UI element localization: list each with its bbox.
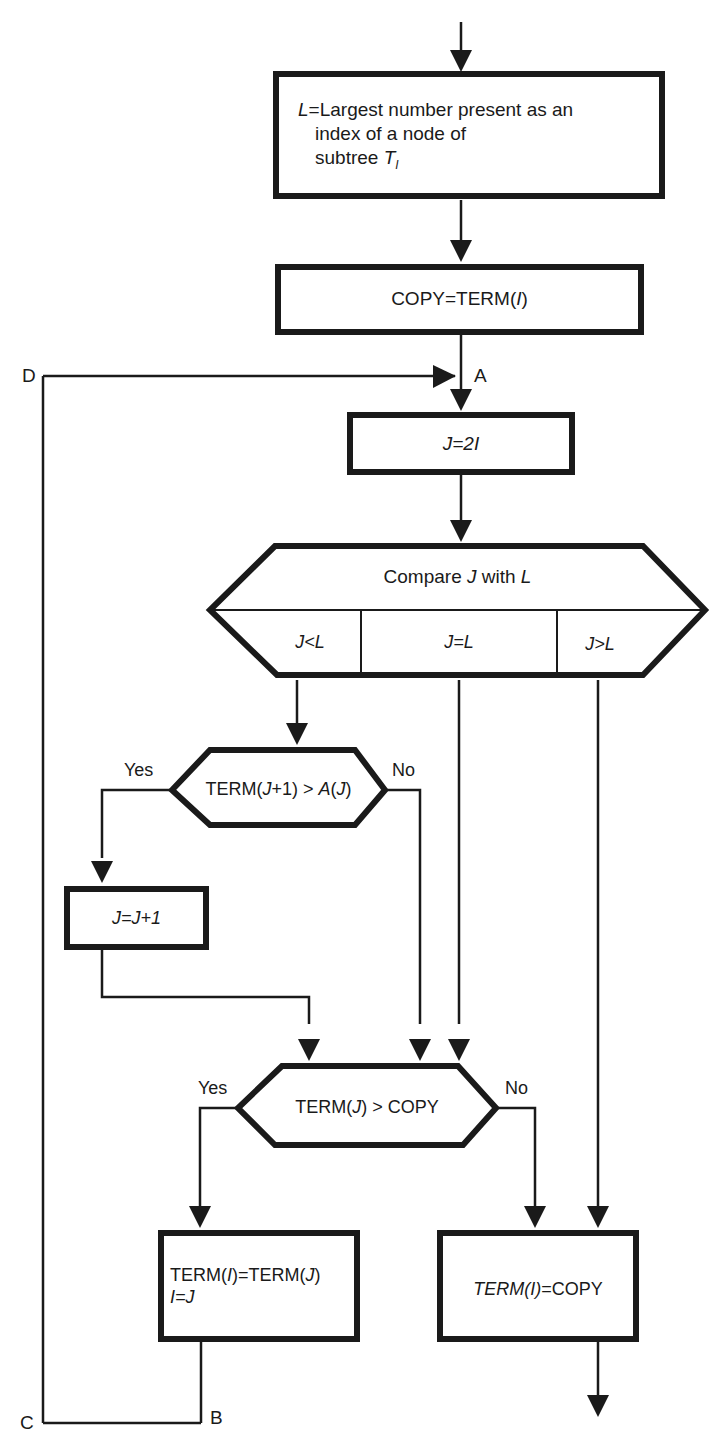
term-mid: )=TERM( [232,1265,306,1285]
define-L-line1: =Largest number present as an [309,99,574,120]
copy-term-suffix: ) [522,288,528,309]
assign-line1: TERM(I)=TERM(J) [170,1264,355,1286]
increment-J-text: J=J+1 [67,906,206,930]
arrowhead-icon [448,1039,470,1061]
var-I-sub: I [395,158,398,172]
copy-term-prefix: COPY=TERM( [391,288,516,309]
no-label-1: No [392,760,415,781]
decision-term-copy-text: TERM(J) > COPY [238,1095,496,1119]
branch-equal-label: J=L [361,630,557,654]
no-line-2 [496,1108,535,1208]
arrowhead-icon [450,389,472,411]
final-assign-text: TERM(I)=COPY [440,1277,636,1301]
branch-less-label: J<L [270,630,350,654]
copy-term-text: COPY=TERM(I) [278,287,641,311]
paren-close: ) [346,779,352,799]
define-L-line2: index of a node of [298,122,658,146]
var-J: J [306,1265,315,1285]
paren-close: ) [315,1265,321,1285]
no-label-2: No [505,1078,528,1099]
var-L: L [298,99,309,120]
var-A: A [319,779,331,799]
arrowhead-icon [587,1395,609,1417]
arrowhead-icon [286,723,308,745]
term-mid: +1) > [271,779,318,799]
compare-prefix: Compare [384,566,467,587]
define-L-line3: subtree TI [298,146,658,177]
term-suffix: ) > COPY [361,1097,439,1117]
flowchart-canvas [0,0,721,1447]
var-T: T [384,147,396,168]
connector-C: C [20,1412,34,1434]
arrowhead-icon [450,240,472,262]
increment-to-decision-line [102,950,309,1024]
connector-D: D [22,365,36,387]
var-J: J [337,779,346,799]
yes-line-2 [200,1108,238,1208]
set-J-text: J=2I [350,432,572,456]
connector-B: B [210,1407,223,1429]
no-line-1 [387,790,420,1024]
define-L-text: L=Largest number present as an index of … [298,98,658,177]
arrowhead-icon [450,520,472,542]
connector-A: A [474,365,487,387]
arrowhead-icon [298,1039,320,1061]
term-I-italic: TERM(I) [473,1279,541,1299]
arrowhead-icon [409,1039,431,1061]
arrowhead-icon [91,861,113,883]
compare-title: Compare J with L [210,565,705,589]
assign-term-text: TERM(I)=TERM(J) I=J [170,1264,355,1308]
arrowhead-icon [524,1206,546,1228]
arrowhead-icon [189,1206,211,1228]
subtree-label: subtree [315,147,384,168]
arrowhead-right-icon [433,365,456,388]
decision-term-j1-text: TERM(J+1) > A(J) [172,777,385,801]
var-L: L [521,566,532,587]
yes-label-1: Yes [124,760,153,781]
assign-line2: I=J [170,1286,355,1308]
arrowhead-icon [587,1206,609,1228]
yes-label-2: Yes [198,1078,227,1099]
var-J: J [352,1097,361,1117]
arrowhead-icon [450,50,472,72]
compare-mid: with [476,566,520,587]
term-prefix: TERM( [205,779,262,799]
branch-greater-label: J>L [560,632,640,656]
yes-line-1 [102,790,172,858]
term-prefix: TERM( [170,1265,227,1285]
copy-rest: =COPY [541,1279,603,1299]
term-prefix: TERM( [295,1097,352,1117]
